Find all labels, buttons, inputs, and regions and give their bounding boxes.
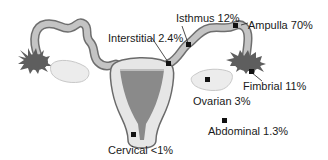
- left-fimbriae: [18, 48, 52, 74]
- left-ovary: [51, 60, 89, 82]
- label-ampulla: Ampulla 70%: [248, 19, 313, 31]
- label-isthmus: Isthmus 12%: [176, 12, 240, 24]
- label-abdominal: Abdominal 1.3%: [208, 125, 288, 137]
- right-ovary: [191, 69, 232, 90]
- marker-isthmus: [186, 42, 191, 47]
- marker-ovarian: [205, 77, 210, 82]
- marker-interstitial: [166, 61, 171, 66]
- label-interstitial: Interstitial 2.4%: [108, 32, 183, 44]
- marker-cervical: [131, 132, 136, 137]
- label-cervical: Cervical <1%: [108, 144, 173, 156]
- label-ovarian: Ovarian 3%: [193, 95, 250, 107]
- ectopic-pregnancy-diagram: Isthmus 12% Ampulla 70% Interstitial 2.4…: [0, 0, 328, 160]
- marker-abdominal: [222, 118, 227, 123]
- marker-fimbrial: [249, 69, 254, 74]
- label-fimbrial: Fimbrial 11%: [243, 80, 306, 92]
- right-fimbriae: [226, 50, 266, 74]
